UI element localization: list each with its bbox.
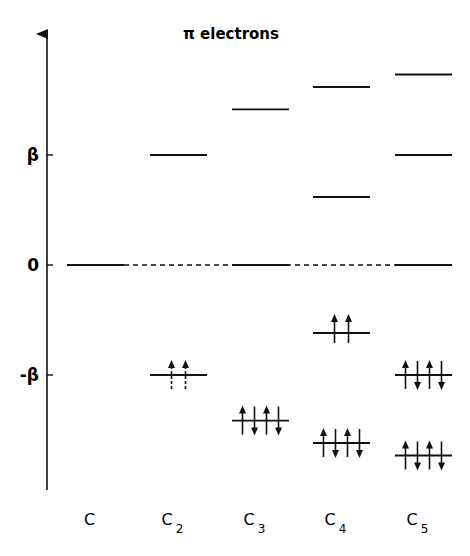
species-subscript: 3 bbox=[258, 522, 266, 536]
arrowhead-down-icon bbox=[251, 428, 258, 436]
arrowhead-up-icon bbox=[402, 360, 409, 368]
arrowhead-up-icon bbox=[426, 360, 433, 368]
species-column-c4 bbox=[313, 87, 370, 458]
arrowhead-down-icon bbox=[438, 463, 445, 471]
orbital-levels bbox=[67, 74, 452, 470]
arrowhead-up-icon bbox=[331, 314, 338, 322]
arrowhead-up-icon bbox=[345, 314, 352, 322]
species-labels: CC2C3C4C5 bbox=[84, 510, 428, 536]
y-tick-label: -β bbox=[20, 365, 39, 385]
arrowhead-down-icon bbox=[356, 450, 363, 458]
species-label: C2 bbox=[162, 510, 184, 536]
arrowhead-down-icon bbox=[414, 463, 421, 471]
arrowhead-down-icon bbox=[414, 382, 421, 390]
arrowhead-up-icon bbox=[182, 360, 189, 368]
orbital-level bbox=[150, 360, 207, 389]
species-label: C4 bbox=[325, 510, 347, 536]
diagram-title: π electrons bbox=[183, 25, 279, 43]
orbital-level bbox=[395, 441, 452, 471]
species-label: C3 bbox=[244, 510, 266, 536]
arrowhead-down-icon bbox=[332, 450, 339, 458]
energy-level-diagram: π electrons β0-β CC2C3C4C5 bbox=[0, 0, 470, 556]
species-label: C bbox=[84, 510, 95, 529]
species-subscript: 5 bbox=[421, 522, 429, 536]
orbital-level bbox=[313, 314, 370, 343]
species-column-c5 bbox=[395, 74, 452, 470]
species-column-c3 bbox=[232, 109, 289, 435]
orbital-level bbox=[313, 428, 370, 458]
species-column-c2 bbox=[150, 155, 207, 389]
species-label: C5 bbox=[407, 510, 429, 536]
arrowhead-up-icon bbox=[168, 360, 175, 368]
y-tick-label: 0 bbox=[27, 255, 39, 275]
arrowhead-up-icon bbox=[426, 441, 433, 449]
orbital-level bbox=[232, 406, 289, 436]
arrowhead-up-icon bbox=[320, 428, 327, 436]
arrowhead-down-icon bbox=[438, 382, 445, 390]
orbital-level bbox=[395, 360, 452, 390]
arrowhead-up-icon bbox=[263, 406, 270, 414]
y-tick-label: β bbox=[27, 145, 39, 165]
species-subscript: 2 bbox=[176, 522, 184, 536]
energy-axis-ticks: β0-β bbox=[20, 145, 53, 385]
arrowhead-up-icon bbox=[344, 428, 351, 436]
arrowhead-down-icon bbox=[275, 428, 282, 436]
arrowhead-up-icon bbox=[239, 406, 246, 414]
arrowhead-up-icon bbox=[402, 441, 409, 449]
species-subscript: 4 bbox=[339, 522, 347, 536]
